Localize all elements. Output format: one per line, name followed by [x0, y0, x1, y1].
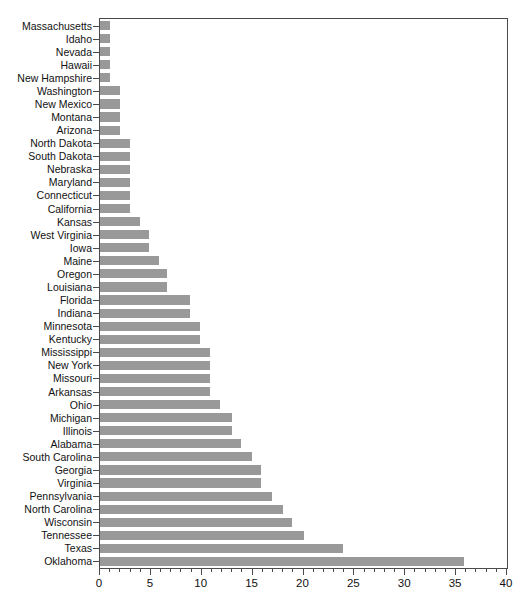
- x-axis-minor-tick: [160, 569, 161, 572]
- x-axis-minor-tick: [394, 569, 395, 572]
- y-axis-label: New York: [0, 360, 92, 371]
- y-axis-tick: [93, 405, 99, 406]
- y-axis-tick: [93, 535, 99, 536]
- y-axis-label: Michigan: [0, 413, 92, 424]
- x-axis-tick: [252, 569, 253, 575]
- x-axis-tick: [404, 569, 405, 575]
- x-axis-label: 10: [194, 578, 207, 590]
- bar-row: [100, 165, 507, 174]
- y-axis-label: California: [0, 204, 92, 215]
- bars-layer: [100, 19, 507, 568]
- x-axis-minor-tick: [343, 569, 344, 572]
- bar-row: [100, 126, 507, 135]
- bar: [100, 439, 241, 448]
- y-axis-label: South Carolina: [0, 452, 92, 463]
- y-axis-labels: MassachusettsIdahoNevadaHawaiiNew Hampsh…: [0, 19, 92, 568]
- x-axis-label: 20: [296, 578, 309, 590]
- bar: [100, 217, 140, 226]
- bar-row: [100, 73, 507, 82]
- bar: [100, 426, 232, 435]
- y-axis-tick: [93, 287, 99, 288]
- bar: [100, 452, 252, 461]
- bar-row: [100, 86, 507, 95]
- y-axis-tick: [93, 235, 99, 236]
- bar-row: [100, 309, 507, 318]
- x-axis-minor-tick: [414, 569, 415, 572]
- bar-row: [100, 230, 507, 239]
- bar-row: [100, 531, 507, 540]
- y-axis-tick: [93, 130, 99, 131]
- y-axis-tick: [93, 261, 99, 262]
- x-axis-tick: [353, 569, 354, 575]
- y-axis-label: Indiana: [0, 308, 92, 319]
- bar: [100, 269, 167, 278]
- x-axis-label: 15: [245, 578, 258, 590]
- bar-row: [100, 60, 507, 69]
- bar-row: [100, 243, 507, 252]
- bar: [100, 256, 159, 265]
- y-axis-label: Arkansas: [0, 387, 92, 398]
- x-axis-minor-tick: [496, 569, 497, 572]
- x-axis-tick: [506, 569, 507, 575]
- y-axis-tick: [93, 91, 99, 92]
- bar-row: [100, 400, 507, 409]
- y-axis-label: Georgia: [0, 465, 92, 476]
- y-axis-label: Kansas: [0, 217, 92, 228]
- y-axis-tick: [93, 248, 99, 249]
- bar: [100, 73, 110, 82]
- y-axis-label: Arizona: [0, 125, 92, 136]
- y-axis-tick: [93, 509, 99, 510]
- x-axis-label: 5: [147, 578, 153, 590]
- bar: [100, 465, 261, 474]
- bar: [100, 400, 220, 409]
- y-axis-tick: [93, 104, 99, 105]
- x-axis-label: 0: [96, 578, 102, 590]
- y-axis-label: Nevada: [0, 47, 92, 58]
- y-axis-tick: [93, 339, 99, 340]
- bar: [100, 165, 130, 174]
- bar: [100, 335, 200, 344]
- x-axis-label: 30: [398, 578, 411, 590]
- bar: [100, 478, 261, 487]
- y-axis-label: North Dakota: [0, 138, 92, 149]
- bar: [100, 374, 210, 383]
- bar: [100, 322, 200, 331]
- bar-row: [100, 21, 507, 30]
- x-axis-minor-tick: [486, 569, 487, 572]
- y-axis-tick: [93, 378, 99, 379]
- bar: [100, 492, 272, 501]
- x-axis-minor-tick: [475, 569, 476, 572]
- y-axis-label: Maine: [0, 256, 92, 267]
- y-axis-label: South Dakota: [0, 151, 92, 162]
- y-axis-label: Texas: [0, 543, 92, 554]
- x-axis-minor-tick: [465, 569, 466, 572]
- bar: [100, 60, 110, 69]
- y-axis-tick: [93, 392, 99, 393]
- x-axis-minor-tick: [384, 569, 385, 572]
- x-axis-tick: [99, 569, 100, 575]
- bar: [100, 152, 130, 161]
- y-axis-tick: [93, 326, 99, 327]
- bar-row: [100, 348, 507, 357]
- y-axis-label: Virginia: [0, 478, 92, 489]
- x-axis-minor-tick: [130, 569, 131, 572]
- bar: [100, 557, 464, 566]
- y-axis-label: New Mexico: [0, 99, 92, 110]
- bar-row: [100, 557, 507, 566]
- x-axis-tick: [150, 569, 151, 575]
- bar: [100, 99, 120, 108]
- y-axis-tick: [93, 117, 99, 118]
- y-axis-tick: [93, 431, 99, 432]
- x-axis-minor-tick: [445, 569, 446, 572]
- y-axis-tick: [93, 470, 99, 471]
- y-axis-label: Montana: [0, 112, 92, 123]
- y-axis-tick: [93, 169, 99, 170]
- y-axis-tick: [93, 418, 99, 419]
- y-axis-label: Louisiana: [0, 282, 92, 293]
- x-axis-minor-tick: [221, 569, 222, 572]
- y-axis-tick: [93, 52, 99, 53]
- bar: [100, 178, 130, 187]
- x-axis-minor-tick: [119, 569, 120, 572]
- bar-row: [100, 335, 507, 344]
- bar: [100, 348, 210, 357]
